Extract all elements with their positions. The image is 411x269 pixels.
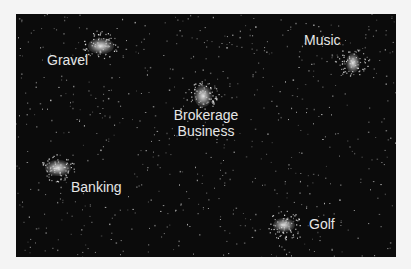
label-brokerage-line1: Brokerage: [166, 107, 246, 123]
cluster-core-golf: [273, 218, 295, 232]
cluster-gravel: [84, 34, 118, 58]
label-music: Music: [304, 32, 341, 48]
label-brokerage-line2: Business: [166, 123, 246, 139]
cluster-core-music: [346, 53, 360, 73]
cluster-core-gravel: [88, 38, 114, 54]
label-golf: Golf: [309, 216, 335, 232]
cluster-core-brokerage-business: [194, 85, 212, 107]
cluster-core-banking: [45, 160, 71, 176]
label-banking: Banking: [71, 179, 122, 195]
label-gravel: Gravel: [47, 52, 88, 68]
cluster-image-panel: Gravel Brokerage Business Music Banking …: [16, 14, 396, 257]
cluster-banking: [42, 156, 74, 180]
cluster-music: [342, 50, 364, 76]
cluster-golf: [270, 214, 298, 236]
label-brokerage-business: Brokerage Business: [166, 107, 246, 139]
cluster-brokerage-business: [190, 82, 216, 110]
